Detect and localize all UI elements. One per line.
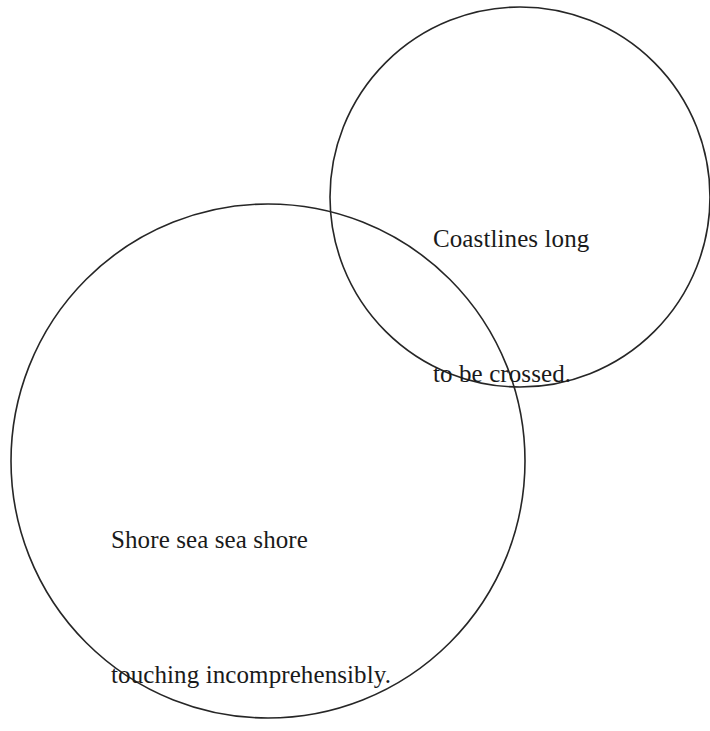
venn-diagram-canvas: Coastlines long to be crossed. Shore sea…	[0, 0, 710, 731]
bottom-left-label-line-2: touching incomprehensibly.	[111, 652, 391, 697]
bottom-left-label-line-1: Shore sea sea shore	[111, 517, 391, 562]
top-right-label-line-2: to be crossed.	[433, 351, 589, 396]
top-right-label-line-1: Coastlines long	[433, 216, 589, 261]
bottom-left-circle-label: Shore sea sea shore touching incomprehen…	[111, 427, 391, 731]
top-right-circle-label: Coastlines long to be crossed.	[433, 126, 589, 486]
